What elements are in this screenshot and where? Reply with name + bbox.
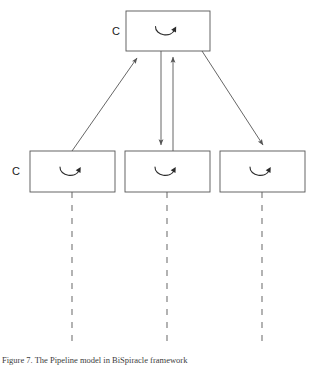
block-top[interactable] bbox=[126, 11, 210, 51]
block-top-frame bbox=[126, 11, 210, 51]
figure-caption: Figure 7. The Pipeline model in BiSpirac… bbox=[0, 355, 323, 365]
block-bottom-middle-frame bbox=[125, 151, 210, 192]
connector-group bbox=[72, 51, 263, 151]
figure-root: C C Figure 7. The Pipeline model in BiSp… bbox=[0, 0, 323, 365]
block-bottom-left-label: C bbox=[12, 166, 20, 177]
lifeline-group bbox=[72, 192, 262, 345]
block-bottom-left-frame bbox=[30, 151, 115, 192]
block-bottom-right[interactable] bbox=[220, 151, 305, 192]
connector-left-up bbox=[72, 58, 137, 151]
block-bottom-middle[interactable] bbox=[125, 151, 210, 192]
block-bottom-left[interactable] bbox=[30, 151, 115, 192]
diagram-canvas bbox=[0, 0, 323, 365]
figure-caption-text: Figure 7. The Pipeline model in BiSpirac… bbox=[2, 355, 187, 365]
connector-right-down bbox=[202, 51, 263, 145]
block-top-label: C bbox=[112, 26, 120, 37]
block-bottom-right-frame bbox=[220, 151, 305, 192]
